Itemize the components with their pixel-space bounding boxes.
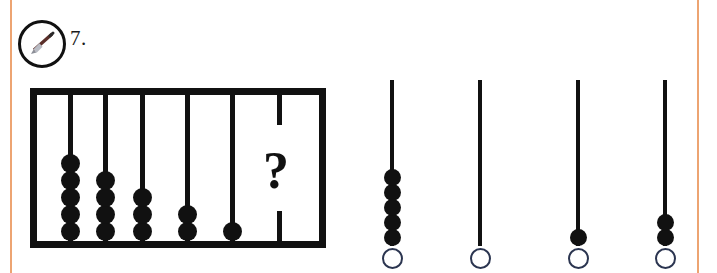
question-badge <box>18 20 66 68</box>
abacus-bead <box>96 188 115 207</box>
abacus-bead <box>61 188 80 207</box>
option-bead <box>384 229 401 246</box>
option-bead <box>384 199 401 216</box>
abacus-bead <box>178 205 197 224</box>
worksheet-page: 7. ? <box>0 0 717 273</box>
abacus-bead <box>133 205 152 224</box>
abacus-bead <box>96 222 115 241</box>
abacus-bead <box>61 222 80 241</box>
abacus-bead <box>61 171 80 190</box>
option-bead <box>657 214 674 231</box>
option-select-circle-b[interactable] <box>470 248 491 269</box>
question-number: 7. <box>70 28 87 49</box>
option-select-circle-c[interactable] <box>568 248 589 269</box>
abacus-bead <box>96 171 115 190</box>
option-bead <box>657 229 674 246</box>
abacus-bead <box>133 222 152 241</box>
pencil-icon <box>21 23 63 65</box>
left-margin-rule <box>10 0 12 273</box>
abacus-rod-6-unknown-top <box>277 95 282 125</box>
unknown-value-questionmark: ? <box>263 145 289 197</box>
abacus-bead <box>61 154 80 173</box>
right-margin-rule <box>697 0 699 273</box>
option-select-circle-a[interactable] <box>382 248 403 269</box>
option-bead <box>384 169 401 186</box>
option-rod <box>576 80 580 246</box>
abacus-bead <box>178 222 197 241</box>
abacus-frame: ? <box>30 88 326 248</box>
option-select-circle-d[interactable] <box>655 248 676 269</box>
option-bead <box>570 229 587 246</box>
option-bead <box>384 184 401 201</box>
abacus-bead <box>223 222 242 241</box>
option-bead <box>384 214 401 231</box>
abacus-bead <box>96 205 115 224</box>
option-rod <box>478 80 482 246</box>
abacus-bead <box>133 188 152 207</box>
abacus-rod-5 <box>230 95 235 241</box>
abacus-bead <box>61 205 80 224</box>
abacus-rod-6-unknown-bottom <box>277 211 282 241</box>
